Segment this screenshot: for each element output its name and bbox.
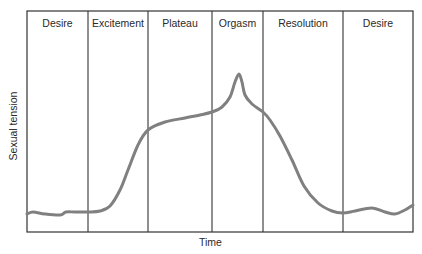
sexual-response-cycle-diagram — [0, 0, 422, 254]
y-axis-label: Sexual tension — [7, 91, 19, 161]
phase-label-orgasm: Orgasm — [212, 17, 263, 29]
phase-dividers — [88, 11, 343, 232]
frame-border — [27, 11, 413, 232]
phase-label-excitement: Excitement — [88, 17, 148, 29]
phase-label-resolution: Resolution — [263, 17, 343, 29]
phase-label-desire: Desire — [27, 17, 88, 29]
tension-curve — [27, 74, 413, 215]
phase-label-desire: Desire — [343, 17, 413, 29]
diagram-frame — [27, 11, 413, 232]
phase-label-plateau: Plateau — [148, 17, 212, 29]
x-axis-label: Time — [199, 236, 222, 248]
